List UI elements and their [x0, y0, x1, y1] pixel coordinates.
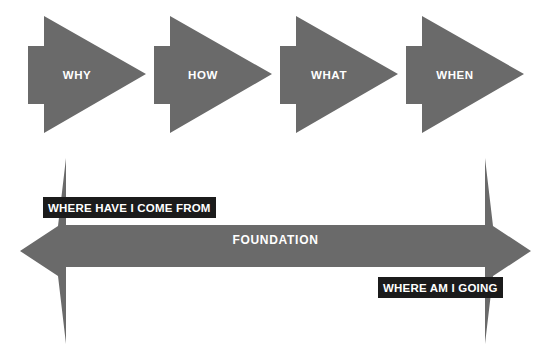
arrow-shape-why[interactable]: WHY — [28, 16, 148, 134]
right-arrow-icon — [280, 16, 400, 134]
foundation-arrow[interactable]: FOUNDATION — [18, 156, 533, 346]
arrow-shape-what[interactable]: WHAT — [280, 16, 400, 134]
arrow-shape-when[interactable]: WHEN — [406, 16, 526, 134]
diagram-canvas: WHY HOW WHAT WHEN — [0, 0, 549, 356]
arrow-shape-how[interactable]: HOW — [154, 16, 274, 134]
right-arrow-icon — [406, 16, 526, 134]
callout-where-have-i-come-from[interactable]: WHERE HAVE I COME FROM — [43, 197, 216, 218]
right-arrow-icon — [154, 16, 274, 134]
callout-where-am-i-going[interactable]: WHERE AM I GOING — [378, 277, 503, 298]
arrow-sequence: WHY HOW WHAT WHEN — [0, 0, 549, 145]
double-headed-arrow-icon — [18, 156, 533, 346]
right-arrow-icon — [28, 16, 148, 134]
